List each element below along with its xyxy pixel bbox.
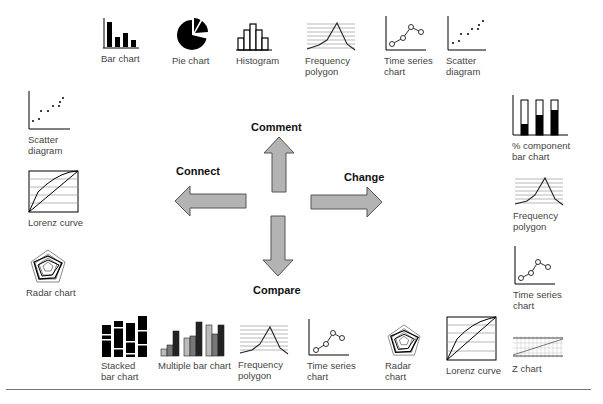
multiple-bar-icon — [158, 319, 232, 357]
item-label: Scatter diagram — [446, 55, 480, 77]
right-percent-component-bar: % component bar chart — [512, 95, 570, 162]
bar-chart-icon — [101, 16, 141, 50]
lorenz-curve-icon — [446, 316, 498, 362]
arrow-up-icon — [262, 136, 296, 194]
right-time-series: Time series chart — [513, 246, 562, 311]
percent-component-bar-icon — [512, 95, 570, 137]
item-label: Time series chart — [384, 55, 433, 77]
item-label: Frequency polygon — [513, 210, 558, 232]
item-label: Radar chart — [26, 287, 76, 298]
item-label: Lorenz curve — [28, 217, 83, 228]
bottom-z-chart: Z chart — [512, 336, 564, 374]
item-label: Bar chart — [101, 53, 140, 64]
direction-connect: Connect — [176, 165, 220, 177]
top-pie-chart: Pie chart — [172, 18, 212, 66]
left-lorenz-curve: Lorenz curve — [28, 170, 83, 228]
frequency-polygon-icon — [238, 322, 290, 356]
lorenz-curve-icon — [28, 170, 80, 214]
time-series-icon — [384, 16, 428, 52]
frequency-polygon-icon — [305, 18, 357, 52]
item-label: Frequency polygon — [238, 359, 283, 381]
left-scatter-diagram: Scatter diagram — [28, 91, 72, 156]
arrow-down-icon — [261, 214, 295, 278]
stacked-bar-icon — [101, 315, 151, 357]
arrow-right-icon — [309, 186, 383, 218]
direction-comment: Comment — [251, 121, 302, 133]
item-label: Z chart — [512, 363, 542, 374]
item-label: % component bar chart — [512, 140, 570, 162]
radar-chart-icon — [385, 323, 423, 357]
item-label: Time series chart — [513, 289, 562, 311]
item-label: Pie chart — [172, 55, 210, 66]
item-label: Time series chart — [307, 360, 356, 382]
z-chart-icon — [512, 336, 564, 360]
item-label: Frequency polygon — [305, 55, 350, 77]
item-label: Histogram — [236, 55, 279, 66]
bottom-radar-chart: Radar chart — [385, 323, 423, 382]
bottom-multiple-bar: Multiple bar chart — [158, 319, 232, 371]
arrow-left-icon — [174, 185, 248, 217]
bottom-stacked-bar: Stacked bar chart — [101, 315, 151, 382]
item-label: Stacked bar chart — [101, 360, 139, 382]
item-label: Scatter diagram — [28, 134, 62, 156]
direction-compare: Compare — [253, 284, 301, 296]
time-series-icon — [307, 319, 351, 357]
pie-chart-icon — [172, 18, 212, 52]
top-histogram: Histogram — [236, 20, 279, 66]
item-label: Multiple bar chart — [158, 360, 231, 371]
histogram-icon — [236, 20, 274, 52]
bottom-lorenz-curve: Lorenz curve — [446, 316, 501, 376]
item-label: Radar chart — [385, 360, 411, 382]
time-series-icon — [513, 246, 557, 286]
radar-chart-icon — [28, 248, 68, 284]
left-radar-chart: Radar chart — [26, 248, 76, 298]
top-frequency-polygon: Frequency polygon — [305, 18, 357, 77]
item-label: Lorenz curve — [446, 365, 501, 376]
top-scatter-diagram: Scatter diagram — [446, 16, 490, 77]
bottom-frequency-polygon: Frequency polygon — [238, 322, 290, 381]
top-bar-chart: Bar chart — [101, 16, 141, 64]
scatter-diagram-icon — [446, 16, 490, 52]
direction-change: Change — [344, 171, 384, 183]
frequency-polygon-icon — [513, 173, 565, 207]
top-time-series: Time series chart — [384, 16, 433, 77]
right-frequency-polygon: Frequency polygon — [513, 173, 565, 232]
scatter-diagram-icon — [28, 91, 72, 131]
bottom-time-series: Time series chart — [307, 319, 356, 382]
bottom-divider — [6, 389, 591, 390]
